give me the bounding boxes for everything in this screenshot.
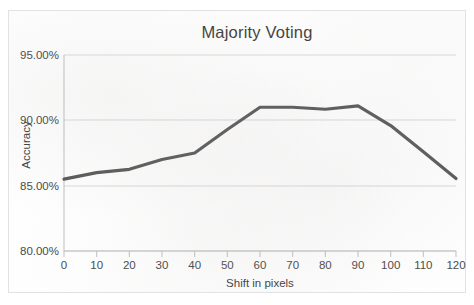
x-axis-title: Shift in pixels <box>64 277 456 289</box>
x-tick-label-10: 10 <box>90 259 103 271</box>
x-tick-label-70: 70 <box>286 259 299 271</box>
axis-lines <box>64 55 456 251</box>
x-tick-label-20: 20 <box>123 259 136 271</box>
x-tick-label-80: 80 <box>319 259 332 271</box>
data-series-line <box>64 106 456 179</box>
chart-figure: Majority Voting 95.00% 90.00% 85.00% 80.… <box>8 10 466 293</box>
x-tick-label-40: 40 <box>188 259 201 271</box>
x-tick-label-0: 0 <box>61 259 67 271</box>
x-tick-label-100: 100 <box>381 259 400 271</box>
x-tick-label-50: 50 <box>221 259 234 271</box>
gridlines <box>64 55 456 251</box>
x-tick-label-60: 60 <box>254 259 267 271</box>
chart-plot <box>9 11 467 294</box>
x-tick-label-120: 120 <box>446 259 465 271</box>
x-tick-label-110: 110 <box>414 259 432 271</box>
x-tick-label-30: 30 <box>156 259 169 271</box>
x-tick-label-90: 90 <box>352 259 365 271</box>
x-axis-ticks <box>64 251 456 257</box>
